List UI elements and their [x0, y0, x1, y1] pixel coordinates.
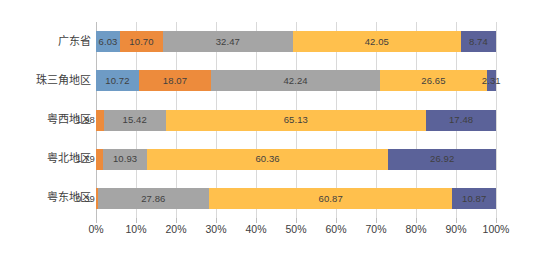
- category-label: 粤西地区: [47, 114, 91, 125]
- x-axis-tick-label: 60%: [325, 224, 346, 235]
- segment-value-label: 26.92: [430, 154, 454, 164]
- value-axis-labels: 0%10%20%30%40%50%60%70%80%90%100%: [96, 224, 496, 244]
- segment-value-label: 10.70: [129, 37, 153, 47]
- bar-segment[interactable]: 60.36: [147, 149, 388, 170]
- segment-value-label: 42.24: [283, 76, 307, 86]
- bar-row[interactable]: 6.0310.7032.4742.058.74: [96, 31, 496, 52]
- category-label: 广东省: [58, 36, 91, 47]
- segment-value-label: 18.07: [163, 76, 187, 86]
- segment-value-label: 15.42: [123, 115, 147, 125]
- segment-value-label: 26.65: [421, 76, 445, 86]
- segment-value-label: 60.36: [255, 154, 279, 164]
- category-label: 珠三角地区: [36, 75, 91, 86]
- bar-segment[interactable]: 10.87: [452, 188, 495, 209]
- bar-row[interactable]: 1.7910.9360.3626.92: [96, 149, 496, 170]
- bar-segment[interactable]: 1.98: [96, 110, 104, 131]
- bar-segment[interactable]: 2.31: [487, 70, 496, 91]
- x-axis-tick-label: 100%: [483, 224, 510, 235]
- segment-value-label: 65.13: [284, 115, 308, 125]
- x-axis-tick-label: 20%: [165, 224, 186, 235]
- segment-value-label: 2.31: [482, 76, 501, 86]
- gridline-100: [496, 22, 497, 218]
- bar-segment[interactable]: 42.24: [211, 70, 380, 91]
- segment-value-label: 8.74: [469, 37, 488, 47]
- bar-rows: 6.0310.7032.4742.058.7410.7218.0742.2426…: [96, 22, 496, 218]
- category-label: 粤北地区: [47, 153, 91, 164]
- x-axis-tick-label: 80%: [405, 224, 426, 235]
- bar-segment[interactable]: 17.48: [426, 110, 496, 131]
- x-axis-tick-label: 10%: [125, 224, 146, 235]
- x-axis-tick-label: 30%: [205, 224, 226, 235]
- bar-segment[interactable]: 15.42: [104, 110, 166, 131]
- segment-value-label: 10.93: [113, 154, 137, 164]
- plot-area: 6.0310.7032.4742.058.7410.7218.0742.2426…: [96, 22, 496, 218]
- x-axis-tick-label: 70%: [365, 224, 386, 235]
- x-axis-tick-label: 90%: [445, 224, 466, 235]
- bar-row[interactable]: 1.9815.4265.1317.48: [96, 110, 496, 131]
- bar-segment[interactable]: 42.05: [293, 31, 461, 52]
- bar-row[interactable]: 0.3927.8660.8710.87: [96, 188, 496, 209]
- bar-segment[interactable]: 32.47: [163, 31, 293, 52]
- category-label: 粤东地区: [47, 192, 91, 203]
- x-axis-tick-label: 40%: [245, 224, 266, 235]
- bar-row[interactable]: 10.7218.0742.2426.652.31: [96, 70, 496, 91]
- bar-segment[interactable]: 6.03: [96, 31, 120, 52]
- segment-value-label: 17.48: [449, 115, 473, 125]
- stacked-bar-chart: 6.0310.7032.4742.058.7410.7218.0742.2426…: [0, 0, 534, 254]
- bar-segment[interactable]: 65.13: [166, 110, 427, 131]
- bar-segment[interactable]: 18.07: [139, 70, 211, 91]
- segment-value-label: 6.03: [99, 37, 118, 47]
- bar-segment[interactable]: 27.86: [98, 188, 209, 209]
- bar-segment[interactable]: 60.87: [209, 188, 452, 209]
- bar-segment[interactable]: 26.65: [380, 70, 487, 91]
- segment-value-label: 32.47: [216, 37, 240, 47]
- bar-segment[interactable]: 10.72: [96, 70, 139, 91]
- segment-value-label: 10.87: [462, 194, 486, 204]
- x-axis-tick-label: 0%: [88, 224, 103, 235]
- segment-value-label: 42.05: [365, 37, 389, 47]
- bar-segment[interactable]: 1.79: [96, 149, 103, 170]
- bar-segment[interactable]: 26.92: [388, 149, 496, 170]
- segment-value-label: 27.86: [141, 194, 165, 204]
- bar-segment[interactable]: 10.70: [120, 31, 163, 52]
- bar-segment[interactable]: 8.74: [461, 31, 496, 52]
- category-axis-labels: 广东省珠三角地区粤西地区粤北地区粤东地区: [0, 22, 96, 218]
- bar-segment[interactable]: 10.93: [103, 149, 147, 170]
- x-axis-tick-label: 50%: [285, 224, 306, 235]
- segment-value-label: 10.72: [105, 76, 129, 86]
- segment-value-label: 60.87: [319, 194, 343, 204]
